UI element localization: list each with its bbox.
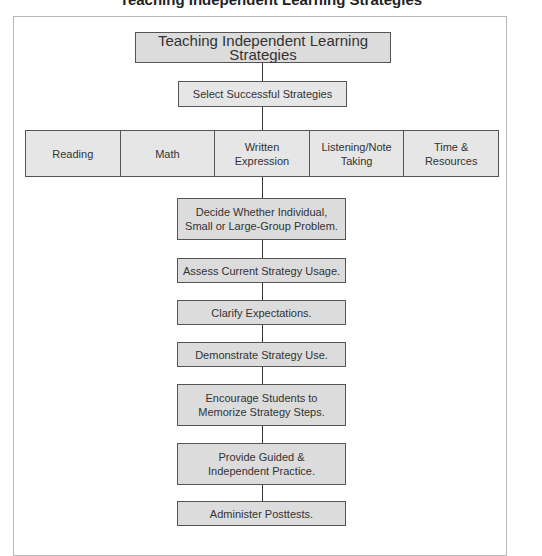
step-label: Decide Whether Individual, Small or Larg…	[182, 205, 342, 233]
select-strategies-node: Select Successful Strategies	[178, 81, 347, 107]
category-listening-note-taking: Listening/Note Taking	[310, 131, 405, 176]
root-node: Teaching Independent Learning Strategies	[135, 32, 391, 63]
connector-line	[262, 283, 263, 300]
category-reading: Reading	[26, 131, 121, 176]
step-memorize-strategy-steps: Encourage Students to Memorize Strategy …	[177, 384, 346, 426]
step-assess-strategy-usage: Assess Current Strategy Usage.	[177, 258, 346, 283]
step-administer-posttests: Administer Posttests.	[177, 501, 346, 526]
root-node-label: Teaching Independent Learning Strategies	[136, 34, 390, 62]
connector-line	[262, 63, 263, 81]
step-clarify-expectations: Clarify Expectations.	[177, 300, 346, 325]
step-label: Assess Current Strategy Usage.	[183, 264, 340, 278]
step-demonstrate-strategy: Demonstrate Strategy Use.	[177, 342, 346, 367]
category-label: Math	[155, 147, 179, 161]
connector-line	[262, 426, 263, 443]
strategy-categories-row: Reading Math Written Expression Listenin…	[25, 130, 499, 177]
category-label: Time & Resources	[421, 140, 481, 168]
connector-line	[262, 240, 263, 258]
connector-line	[262, 177, 263, 198]
step-label: Encourage Students to Memorize Strategy …	[182, 391, 342, 419]
category-label: Listening/Note Taking	[317, 140, 397, 168]
step-decide-problem-scope: Decide Whether Individual, Small or Larg…	[177, 198, 346, 240]
category-time-resources: Time & Resources	[404, 131, 498, 176]
connector-line	[262, 485, 263, 501]
category-label: Written Expression	[232, 140, 292, 168]
figure-title: Teaching Independent Learning Strategies	[0, 0, 542, 8]
step-label: Administer Posttests.	[210, 507, 313, 521]
step-guided-independent-practice: Provide Guided & Independent Practice.	[177, 443, 346, 485]
category-written-expression: Written Expression	[215, 131, 310, 176]
connector-line	[262, 325, 263, 342]
category-math: Math	[121, 131, 216, 176]
category-label: Reading	[52, 147, 93, 161]
step-label: Clarify Expectations.	[211, 306, 311, 320]
step-label: Provide Guided & Independent Practice.	[187, 450, 337, 478]
connector-line	[262, 367, 263, 384]
step-label: Demonstrate Strategy Use.	[195, 348, 328, 362]
select-strategies-label: Select Successful Strategies	[193, 87, 332, 101]
connector-line	[262, 107, 263, 130]
